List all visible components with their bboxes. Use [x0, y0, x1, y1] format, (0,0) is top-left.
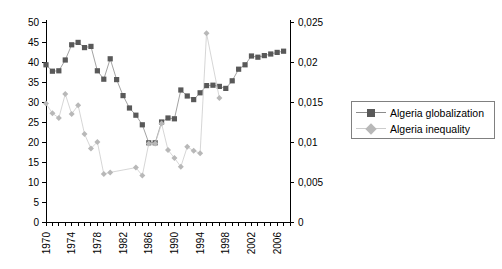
series-line-inequality [46, 33, 219, 175]
x-tick-label: 1986 [143, 232, 154, 255]
x-tick-label: 1970 [41, 232, 52, 255]
data-point-globalization [95, 68, 100, 73]
data-point-globalization [185, 93, 190, 98]
legend-key-inequality-icon [356, 122, 386, 136]
data-point-globalization [178, 87, 183, 92]
x-tick-label: 1990 [169, 232, 180, 255]
data-point-inequality [56, 115, 62, 121]
y-left-tick-label: 45 [28, 37, 40, 48]
legend-item-globalization[interactable]: Algeria globalization [356, 105, 490, 121]
data-point-globalization [230, 78, 235, 83]
y-left-tick-label: 5 [33, 197, 39, 208]
data-point-globalization [120, 93, 125, 98]
legend-item-inequality[interactable]: Algeria inequality [356, 121, 490, 137]
data-point-globalization [133, 113, 138, 118]
chart-canvas: 0510152025303540455000,0050,010,0150,020… [0, 0, 340, 269]
y-right-tick-label: 0,01 [298, 137, 318, 148]
data-point-globalization [88, 44, 93, 49]
data-point-globalization [268, 51, 273, 56]
data-point-globalization [140, 122, 145, 127]
data-point-inequality [75, 102, 81, 108]
y-left-tick-label: 40 [28, 57, 40, 68]
y-right-tick-label: 0,005 [298, 177, 323, 188]
data-point-inequality [101, 171, 107, 177]
data-point-globalization [63, 57, 68, 62]
y-right-tick-label: 0,02 [298, 57, 318, 68]
y-right-tick-label: 0,015 [298, 97, 323, 108]
data-point-globalization [76, 40, 81, 45]
data-point-inequality [204, 30, 210, 36]
y-right-tick-label: 0 [298, 217, 304, 228]
data-point-inequality [82, 131, 88, 137]
data-point-inequality [69, 111, 75, 117]
x-tick-label: 2006 [272, 232, 283, 255]
data-point-globalization [191, 97, 196, 102]
chart-legend: Algeria globalization Algeria inequality [351, 101, 495, 139]
data-point-globalization [165, 115, 170, 120]
data-point-inequality [184, 144, 190, 150]
data-point-inequality [197, 150, 203, 156]
data-point-globalization [275, 50, 280, 55]
x-tick-label: 2002 [246, 232, 257, 255]
data-point-globalization [236, 67, 241, 72]
data-point-globalization [210, 83, 215, 88]
data-point-globalization [198, 90, 203, 95]
data-point-inequality [216, 95, 222, 101]
x-tick-label: 1978 [92, 232, 103, 255]
data-point-globalization [255, 55, 260, 60]
data-point-globalization [127, 105, 132, 110]
data-point-globalization [56, 68, 61, 73]
y-left-tick-label: 20 [28, 137, 40, 148]
x-tick-label: 1974 [66, 232, 77, 255]
data-point-globalization [172, 116, 177, 121]
data-point-globalization [69, 42, 74, 47]
data-point-globalization [43, 62, 48, 67]
y-left-tick-label: 35 [28, 77, 40, 88]
data-point-globalization [249, 53, 254, 58]
data-point-globalization [262, 53, 267, 58]
x-tick-label: 1982 [118, 232, 129, 255]
legend-label-globalization: Algeria globalization [386, 107, 484, 119]
y-left-tick-label: 10 [28, 177, 40, 188]
data-point-inequality [191, 148, 197, 154]
data-point-inequality [107, 169, 113, 175]
y-left-tick-label: 50 [28, 17, 40, 28]
legend-key-globalization-icon [356, 106, 386, 120]
data-point-globalization [108, 56, 113, 61]
legend-label-inequality: Algeria inequality [386, 123, 470, 135]
data-point-inequality [178, 164, 184, 170]
data-point-inequality [49, 110, 55, 116]
x-tick-label: 1994 [195, 232, 206, 255]
data-point-globalization [281, 49, 286, 54]
data-point-globalization [204, 83, 209, 88]
plot-area: 0510152025303540455000,0050,010,0150,020… [0, 0, 340, 269]
x-tick-label: 1998 [220, 232, 231, 255]
data-point-inequality [62, 91, 68, 97]
data-point-globalization [101, 77, 106, 82]
series-line-globalization [46, 42, 284, 142]
chart-root: 0510152025303540455000,0050,010,0150,020… [0, 0, 502, 269]
y-left-tick-label: 25 [28, 117, 40, 128]
y-left-tick-label: 30 [28, 97, 40, 108]
data-point-globalization [242, 62, 247, 67]
data-point-globalization [82, 45, 87, 50]
y-left-tick-label: 15 [28, 157, 40, 168]
y-right-tick-label: 0,025 [298, 17, 323, 28]
data-point-globalization [50, 69, 55, 74]
data-point-globalization [223, 86, 228, 91]
y-left-tick-label: 0 [33, 217, 39, 228]
data-point-globalization [114, 77, 119, 82]
